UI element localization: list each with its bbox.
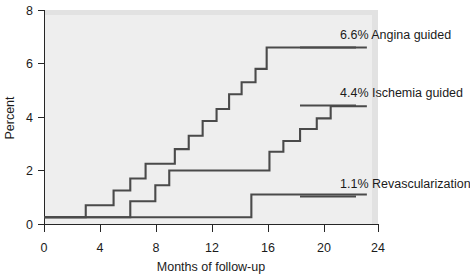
chart-svg: 8 6 4 2 0 Percent 0 4 8 12 16 20 24 Mont…: [0, 0, 470, 277]
y-tick-label-0: 0: [26, 218, 33, 232]
y-tick-label-6: 6: [26, 57, 33, 71]
x-tick-label-8: 8: [153, 241, 160, 255]
x-axis-title: Months of follow-up: [157, 260, 265, 274]
x-tick-label-16: 16: [261, 241, 275, 255]
x-tick-label-4: 4: [97, 241, 104, 255]
y-tick-label-2: 2: [26, 164, 33, 178]
y-tick-label-4: 4: [26, 111, 33, 125]
series-label-revascularization: 1.1% Revascularization: [340, 177, 470, 191]
x-tick-label-20: 20: [317, 241, 331, 255]
y-tick-label-8: 8: [26, 4, 33, 18]
x-tick-label-24: 24: [371, 241, 385, 255]
y-axis-title: Percent: [3, 96, 17, 140]
plot-background-top-edge: [44, 10, 378, 15]
x-tick-label-12: 12: [205, 241, 219, 255]
plot-background-right-edge: [372, 10, 378, 224]
plot-background: [44, 10, 378, 224]
x-tick-label-0: 0: [41, 241, 48, 255]
series-label-angina-guided: 6.6% Angina guided: [340, 28, 451, 42]
series-label-ischemia-guided: 4.4% Ischemia guided: [340, 86, 463, 100]
kaplan-meier-chart-figure: 8 6 4 2 0 Percent 0 4 8 12 16 20 24 Mont…: [0, 0, 470, 277]
